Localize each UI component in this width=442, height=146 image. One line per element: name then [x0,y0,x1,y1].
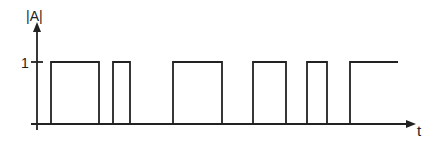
y-axis-label: |A| [26,8,43,24]
x-axis-label: t [417,122,422,139]
pulse-4 [253,62,286,124]
pulse-3 [173,62,222,124]
pulse-chart: |A| t 1 [0,0,442,146]
y-tick-label-1: 1 [21,55,29,71]
pulse-1 [51,62,99,124]
pulse-6 [350,62,398,124]
pulse-2 [113,62,130,124]
pulse-series [51,62,398,124]
x-axis-arrow-icon [406,120,416,128]
pulse-5 [307,62,327,124]
